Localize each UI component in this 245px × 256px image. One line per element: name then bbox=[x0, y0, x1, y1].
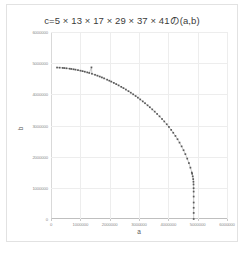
x-axis-title: a bbox=[51, 228, 227, 235]
y-axis-tick-label: 3000000 bbox=[32, 123, 48, 128]
data-point-marker bbox=[70, 68, 72, 70]
data-point-marker bbox=[123, 87, 125, 89]
x-axis-tick-label: 5000000 bbox=[190, 222, 206, 227]
data-point-marker bbox=[103, 78, 105, 80]
data-point-marker bbox=[80, 70, 82, 72]
data-point-marker bbox=[128, 90, 130, 92]
data-point-marker bbox=[193, 212, 195, 214]
data-point-marker bbox=[193, 191, 195, 193]
plot-area: 0100000020000003000000400000050000006000… bbox=[51, 32, 227, 219]
data-point-marker bbox=[193, 218, 195, 220]
data-point-marker bbox=[193, 181, 195, 183]
data-point-marker bbox=[170, 129, 172, 131]
scatter-series bbox=[51, 32, 227, 219]
data-point-marker bbox=[137, 97, 139, 99]
y-axis-tick-label: 2000000 bbox=[32, 154, 48, 159]
data-point-marker bbox=[86, 72, 88, 74]
data-point-marker bbox=[192, 178, 194, 180]
data-point-marker bbox=[73, 68, 75, 70]
data-point-marker bbox=[69, 68, 71, 70]
data-point-marker bbox=[142, 101, 144, 103]
data-point-marker bbox=[115, 83, 117, 85]
y-axis-tick-label: 0 bbox=[46, 217, 48, 222]
x-axis-tick-label: 1000000 bbox=[73, 222, 89, 227]
data-point-marker bbox=[172, 132, 174, 134]
data-point-marker bbox=[66, 67, 68, 69]
data-point-marker bbox=[56, 67, 58, 69]
data-point-marker bbox=[177, 138, 179, 140]
x-axis-tick-label: 0 bbox=[50, 222, 52, 227]
data-point-marker bbox=[179, 142, 181, 144]
chart-container: c=5 × 13 × 17 × 29 × 37 × 41の(a,b) 01000… bbox=[6, 4, 238, 242]
data-point-marker bbox=[101, 77, 103, 79]
data-point-marker bbox=[106, 79, 108, 81]
data-point-marker bbox=[193, 202, 195, 204]
data-point-marker bbox=[163, 121, 165, 123]
data-point-marker bbox=[118, 85, 120, 87]
x-axis-tick-label: 2000000 bbox=[102, 222, 118, 227]
data-point-marker bbox=[166, 123, 168, 125]
data-point-marker bbox=[94, 74, 96, 76]
data-point-marker bbox=[149, 106, 151, 108]
y-axis-title: b bbox=[17, 127, 24, 131]
data-point-marker bbox=[110, 81, 112, 83]
data-point-marker bbox=[88, 72, 90, 74]
x-axis-tick-mark bbox=[168, 219, 169, 221]
data-point-marker bbox=[135, 95, 137, 97]
data-point-marker bbox=[193, 187, 195, 189]
data-point-marker bbox=[190, 167, 192, 169]
data-point-marker bbox=[191, 173, 193, 175]
data-point-marker bbox=[188, 162, 190, 164]
data-point-marker bbox=[113, 82, 115, 84]
data-point-marker bbox=[59, 67, 61, 69]
data-point-marker bbox=[183, 149, 185, 151]
data-point-marker bbox=[97, 75, 99, 77]
data-point-marker bbox=[154, 111, 156, 113]
data-point-marker bbox=[159, 116, 161, 118]
data-point-marker bbox=[161, 118, 163, 120]
data-point-marker bbox=[120, 86, 122, 88]
x-axis-tick-label: 6000000 bbox=[219, 222, 235, 227]
x-axis-tick-mark bbox=[51, 219, 52, 221]
data-point-marker bbox=[77, 69, 79, 71]
data-point-marker bbox=[75, 69, 77, 71]
gridline-vertical bbox=[227, 32, 228, 219]
data-point-marker bbox=[125, 89, 127, 91]
x-axis-tick-mark bbox=[139, 219, 140, 221]
data-point-marker bbox=[175, 135, 177, 137]
data-point-marker bbox=[151, 109, 153, 111]
data-point-marker bbox=[185, 153, 187, 155]
x-axis-tick-mark bbox=[198, 219, 199, 221]
data-point-marker bbox=[186, 158, 188, 160]
series-markers bbox=[56, 67, 194, 220]
data-point-marker bbox=[62, 67, 64, 69]
data-point-marker bbox=[84, 71, 86, 73]
y-axis-tick-label: 6000000 bbox=[32, 30, 48, 35]
data-point-marker bbox=[168, 126, 170, 128]
data-point-marker bbox=[156, 113, 158, 115]
x-axis-tick-mark bbox=[80, 219, 81, 221]
data-point-marker bbox=[181, 146, 183, 148]
data-point-marker bbox=[130, 92, 132, 94]
chart-title: c=5 × 13 × 17 × 29 × 37 × 41の(a,b) bbox=[7, 13, 237, 27]
x-axis-tick-mark bbox=[110, 219, 111, 221]
data-point-marker bbox=[132, 93, 134, 95]
x-axis-tick-label: 3000000 bbox=[131, 222, 147, 227]
data-point-marker bbox=[144, 102, 146, 104]
data-point-marker bbox=[147, 104, 149, 106]
x-axis-tick-mark bbox=[227, 219, 228, 221]
data-point-marker bbox=[139, 99, 141, 101]
data-point-marker bbox=[91, 67, 93, 69]
data-point-marker bbox=[91, 73, 93, 75]
data-point-marker bbox=[192, 176, 194, 178]
x-axis-tick-label: 4000000 bbox=[161, 222, 177, 227]
data-point-marker bbox=[63, 67, 65, 69]
y-axis-tick-label: 1000000 bbox=[32, 185, 48, 190]
data-point-marker bbox=[193, 184, 195, 186]
y-axis-tick-label: 4000000 bbox=[32, 92, 48, 97]
data-point-marker bbox=[193, 196, 195, 198]
data-point-marker bbox=[82, 70, 84, 72]
y-axis-tick-label: 5000000 bbox=[32, 61, 48, 66]
data-point-marker bbox=[108, 80, 110, 82]
data-point-marker bbox=[99, 76, 101, 78]
